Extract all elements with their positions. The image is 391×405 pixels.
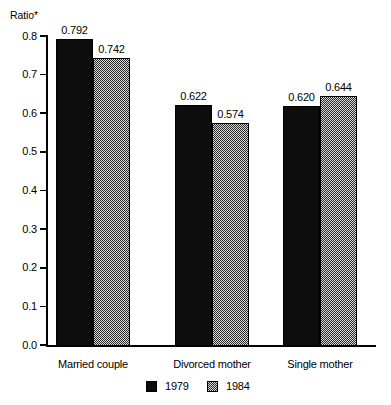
y-axis-tick-label: 0.6 — [1, 108, 37, 119]
legend-label: 1979 — [165, 381, 189, 392]
y-axis-tick-label-wrap: 0.1 — [0, 301, 37, 312]
bar-value-label: 0.792 — [50, 25, 99, 36]
bar-1984-1 — [212, 123, 249, 346]
category-label-1: Divorced mother — [152, 358, 272, 371]
chart-legend: 19791984 — [0, 379, 391, 393]
y-axis-tick — [40, 190, 46, 192]
bar-1979-2 — [283, 106, 320, 346]
bar-chart: Ratio* 0.00.10.20.30.40.50.60.70.8 0.792… — [0, 0, 391, 405]
category-label-2: Single mother — [260, 358, 380, 371]
bar-value-label: 0.622 — [169, 91, 218, 102]
legend-swatch-icon — [146, 381, 157, 392]
y-axis-tick-label: 0.8 — [1, 31, 37, 42]
legend-item-1979[interactable]: 1979 — [146, 379, 189, 393]
bar-1984-2 — [320, 96, 357, 346]
y-axis-tick-label-wrap: 0.2 — [0, 262, 37, 273]
footnote-cutoff — [8, 399, 308, 405]
bar-1979-1 — [175, 105, 212, 346]
bar-value-label: 0.574 — [206, 109, 255, 120]
y-axis-tick-label-wrap: 0.6 — [0, 108, 37, 119]
y-axis-tick-label: 0.0 — [1, 340, 37, 351]
y-axis-tick-label-wrap: 0.8 — [0, 31, 37, 42]
y-axis-tick-label: 0.5 — [1, 146, 37, 157]
y-axis-tick — [40, 35, 46, 37]
category-label-0: Married couple — [33, 358, 153, 371]
y-axis-tick-label: 0.2 — [1, 262, 37, 273]
y-axis-tick — [40, 228, 46, 230]
y-axis-tick-label-wrap: 0.7 — [0, 69, 37, 80]
y-axis-tick — [40, 151, 46, 153]
y-axis-tick-label-wrap: 0.0 — [0, 340, 37, 351]
y-axis-tick-label-wrap: 0.5 — [0, 146, 37, 157]
y-axis-tick-label: 0.4 — [1, 185, 37, 196]
y-axis-tick-label: 0.1 — [1, 301, 37, 312]
y-axis-tick-label: 0.7 — [1, 69, 37, 80]
y-axis-line — [46, 35, 48, 346]
bar-value-label: 0.644 — [314, 82, 363, 93]
y-axis-tick — [40, 112, 46, 114]
bar-1979-0 — [56, 39, 93, 346]
y-axis-tick-label-wrap: 0.4 — [0, 185, 37, 196]
y-axis-tick — [40, 344, 46, 346]
y-axis-tick-label-wrap: 0.3 — [0, 224, 37, 235]
bar-1984-0 — [93, 58, 130, 346]
legend-swatch-icon — [207, 381, 218, 392]
y-axis-tick — [40, 267, 46, 269]
plot-area: 0.00.10.20.30.40.50.60.70.8 0.7920.7420.… — [0, 0, 391, 405]
legend-item-1984[interactable]: 1984 — [207, 379, 250, 393]
bar-value-label: 0.742 — [87, 44, 136, 55]
y-axis-tick-label: 0.3 — [1, 224, 37, 235]
y-axis-tick — [40, 306, 46, 308]
legend-label: 1984 — [226, 381, 250, 392]
y-axis-tick — [40, 74, 46, 76]
